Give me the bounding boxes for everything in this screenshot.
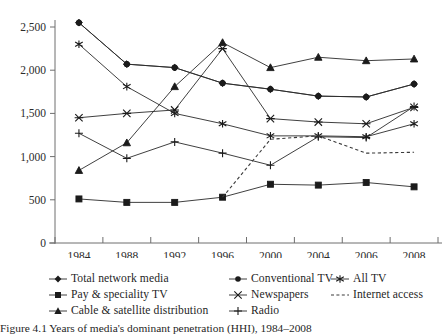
legend-item-label: Cable & satellite distribution [71, 303, 208, 319]
y-tick-label: 1,000 [20, 151, 46, 164]
marker-x-star [75, 114, 84, 121]
legend-marker-asterisk-icon [330, 271, 350, 287]
y-tick-label: 1,500 [20, 107, 46, 120]
chart-plot-area: 05001,0001,5002,0002,5001984198819921996… [0, 0, 442, 258]
legend-marker-square-icon [48, 287, 68, 303]
legend-item[interactable]: Conventional TV [228, 271, 333, 287]
line-chart-svg: 05001,0001,5002,0002,5001984198819921996… [0, 0, 442, 258]
legend-item-label: Internet access [353, 287, 423, 303]
legend-item[interactable]: All TV [330, 271, 387, 287]
axes-group: 05001,0001,5002,0002,5001984198819921996… [20, 20, 442, 258]
marker-square [76, 196, 82, 202]
marker-square [315, 182, 321, 188]
x-tick-label: 2000 [259, 250, 282, 258]
x-tick-label: 2006 [355, 250, 378, 258]
x-tick-label: 2008 [403, 250, 426, 258]
marker-triangle [410, 55, 417, 62]
marker-triangle [315, 53, 322, 60]
marker-asterisk [171, 110, 179, 118]
marker-circle [316, 93, 322, 99]
x-tick-label: 1984 [67, 250, 90, 258]
marker-plus [410, 102, 418, 110]
series-line [79, 23, 414, 97]
marker-triangle [75, 167, 82, 174]
x-tick-label: 1992 [163, 250, 186, 258]
marker-square [172, 199, 178, 205]
marker-circle [76, 20, 82, 26]
marker-plus [75, 129, 83, 137]
legend-marker-diamond-icon [48, 271, 68, 287]
marker-circle [411, 81, 417, 87]
legend-item-label: Conventional TV [251, 271, 333, 287]
legend-item[interactable]: Internet access [330, 287, 423, 303]
marker-asterisk [410, 120, 418, 128]
chart-legend: Total network mediaConventional TVAll TV… [0, 271, 442, 319]
figure-container: 05001,0001,5002,0002,5001984198819921996… [0, 0, 442, 335]
x-tick-label: 1996 [211, 250, 234, 258]
legend-marker-x-star-icon [228, 287, 248, 303]
marker-circle [220, 80, 226, 86]
marker-triangle [219, 39, 226, 46]
legend-marker-triangle-icon [48, 303, 68, 319]
figure-caption-text: Figure 4.1 Years of media's dominant pen… [0, 322, 312, 334]
y-tick-label: 2,500 [20, 21, 46, 34]
marker-asterisk [219, 120, 227, 128]
marker-x-star [218, 45, 227, 52]
legend-item-label: Pay & speciality TV [71, 287, 168, 303]
y-tick-label: 500 [29, 194, 47, 206]
marker-plus [171, 138, 179, 146]
marker-plus [266, 161, 274, 169]
legend-item[interactable]: Cable & satellite distribution [48, 303, 208, 319]
legend-item-label: Radio [251, 303, 279, 319]
legend-marker-circle-icon [228, 271, 248, 287]
marker-x-star [266, 115, 275, 122]
figure-caption: Figure 4.1 Years of media's dominant pen… [0, 322, 442, 334]
legend-marker-plus-icon [228, 303, 248, 319]
legend-item-label: Total network media [71, 271, 169, 287]
marker-circle [172, 65, 178, 71]
marker-circle [124, 61, 130, 67]
marker-circle [268, 86, 274, 92]
legend-marker-none-icon [330, 287, 350, 303]
marker-plus [123, 154, 131, 162]
y-tick-label: 0 [40, 237, 46, 249]
marker-x-star [314, 118, 323, 125]
marker-x-star [123, 110, 132, 117]
legend-item-label: All TV [353, 271, 387, 287]
marker-x-star [362, 120, 371, 127]
chart-series [76, 180, 417, 206]
x-tick-label: 1988 [115, 250, 138, 258]
legend-item[interactable]: Radio [228, 303, 279, 319]
legend-item[interactable]: Pay & speciality TV [48, 287, 168, 303]
marker-square [363, 180, 369, 186]
legend-item-label: Newspapers [251, 287, 309, 303]
marker-square [124, 199, 130, 205]
marker-square [267, 181, 273, 187]
legend-item[interactable]: Newspapers [228, 287, 309, 303]
x-tick-label: 2004 [307, 250, 330, 258]
legend-item[interactable]: Total network media [48, 271, 169, 287]
marker-square [411, 184, 417, 190]
series-line [79, 44, 414, 136]
marker-plus [219, 149, 227, 157]
y-tick-label: 2,000 [20, 64, 46, 77]
marker-circle [363, 94, 369, 100]
